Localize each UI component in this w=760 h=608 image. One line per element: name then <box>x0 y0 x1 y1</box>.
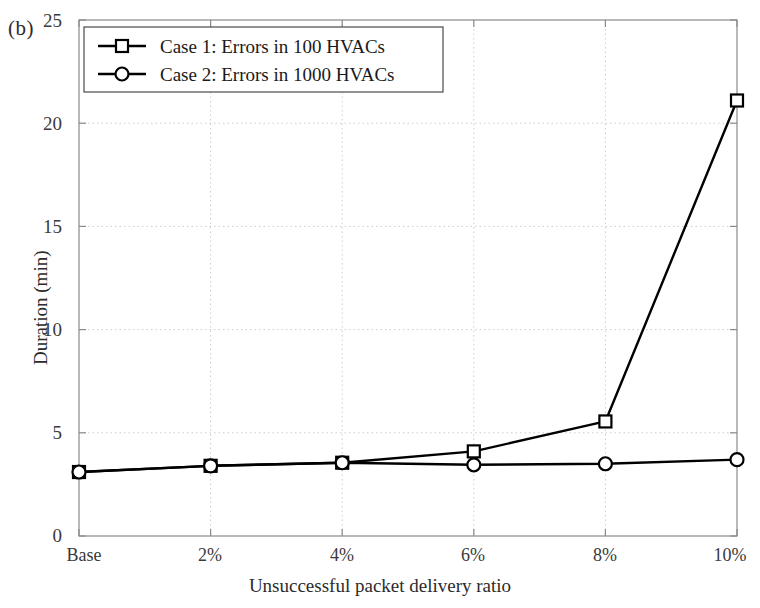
figure-panel-b: (b) Duration (min) Unsuccessful packet d… <box>0 0 760 608</box>
data-point-circle <box>336 456 349 469</box>
series-line <box>79 100 737 472</box>
data-point-circle <box>204 459 217 472</box>
data-point-circle <box>73 466 86 479</box>
legend-marker-square <box>116 40 128 52</box>
plot-frame <box>79 20 737 536</box>
data-point-square <box>731 94 743 106</box>
gridlines <box>79 20 737 536</box>
axis-ticks <box>79 20 737 536</box>
data-point-circle <box>599 457 612 470</box>
data-point-circle <box>467 458 480 471</box>
plot-canvas: Case 1: Errors in 100 HVACsCase 2: Error… <box>0 0 760 608</box>
data-series-layer <box>73 94 744 478</box>
data-point-circle <box>731 453 744 466</box>
legend-marker-circle <box>116 68 129 81</box>
series-line <box>79 460 737 472</box>
data-point-square <box>468 445 480 457</box>
series-1 <box>73 94 743 478</box>
legend-label: Case 2: Errors in 1000 HVACs <box>160 64 395 85</box>
data-point-square <box>599 415 611 427</box>
legend-label: Case 1: Errors in 100 HVACs <box>160 36 385 57</box>
chart-legend: Case 1: Errors in 100 HVACsCase 2: Error… <box>84 27 443 92</box>
